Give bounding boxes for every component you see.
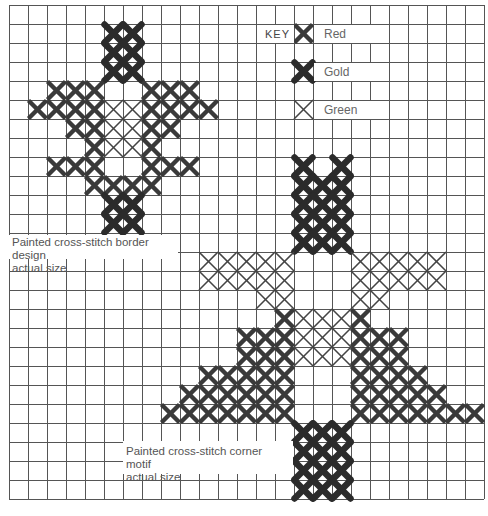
red-stitch-icon: [276, 310, 294, 328]
red-stitch-icon: [352, 405, 370, 423]
red-stitch-icon: [181, 405, 199, 423]
gold-stitch-icon: [295, 481, 313, 499]
gold-stitch-icon: [333, 234, 351, 252]
green-stitch-icon: [332, 328, 351, 347]
green-stitch-icon: [104, 100, 123, 119]
red-stitch-icon: [48, 101, 66, 119]
green-stitch-icon: [294, 328, 313, 347]
red-stitch-icon: [390, 329, 408, 347]
red-stitch-icon: [86, 177, 104, 195]
red-stitch-icon: [238, 329, 256, 347]
red-stitch-icon: [390, 386, 408, 404]
gold-stitch-icon: [105, 63, 123, 81]
green-stitch-icon: [389, 271, 408, 290]
green-stitch-icon: [123, 100, 142, 119]
red-stitch-icon: [352, 329, 370, 347]
red-stitch-icon: [162, 101, 180, 119]
red-stitch-icon: [219, 405, 237, 423]
border-design-caption: Painted cross-stitch border design actua…: [9, 235, 178, 259]
red-stitch-icon: [352, 348, 370, 366]
red-stitch-icon: [257, 329, 275, 347]
green-stitch-icon: [199, 271, 218, 290]
green-stitch-icon: [408, 271, 427, 290]
red-stitch-icon: [257, 367, 275, 385]
key-label-red: Red: [314, 25, 389, 43]
gold-stitch-icon: [333, 481, 351, 499]
red-stitch-icon: [67, 120, 85, 138]
gold-stitch-icon: [105, 25, 123, 43]
caption-line: actual size: [12, 262, 175, 275]
red-stitch-icon: [86, 158, 104, 176]
caption-line: Painted cross-stitch corner motif: [126, 445, 290, 471]
red-stitch-icon: [409, 367, 427, 385]
red-stitch-icon: [390, 405, 408, 423]
red-stitch-icon: [181, 386, 199, 404]
gold-stitch-icon: [295, 63, 313, 81]
green-stitch-icon: [351, 271, 370, 290]
green-stitch-icon: [294, 309, 313, 328]
gold-stitch-icon: [105, 44, 123, 62]
gold-stitch-icon: [295, 424, 313, 442]
red-stitch-icon: [238, 348, 256, 366]
gold-stitch-icon: [295, 462, 313, 480]
green-stitch-icon: [275, 271, 294, 290]
green-stitch-icon: [370, 290, 389, 309]
gold-stitch-icon: [295, 443, 313, 461]
gold-stitch-icon: [314, 443, 332, 461]
red-stitch-icon: [181, 82, 199, 100]
red-stitch-icon: [447, 405, 465, 423]
green-stitch-icon: [313, 328, 332, 347]
gold-stitch-icon: [295, 177, 313, 195]
red-stitch-icon: [276, 367, 294, 385]
red-stitch-icon: [67, 82, 85, 100]
green-stitch-icon: [218, 252, 237, 271]
red-stitch-icon: [295, 25, 313, 43]
green-stitch-icon: [256, 271, 275, 290]
red-stitch-icon: [409, 386, 427, 404]
gold-stitch-icon: [333, 158, 351, 176]
gold-stitch-icon: [295, 196, 313, 214]
green-stitch-icon: [123, 138, 142, 157]
gold-stitch-icon: [333, 196, 351, 214]
gold-stitch-icon: [295, 234, 313, 252]
gold-stitch-icon: [333, 215, 351, 233]
green-stitch-icon: [294, 347, 313, 366]
green-stitch-icon: [256, 290, 275, 309]
green-stitch-icon: [237, 271, 256, 290]
red-stitch-icon: [257, 386, 275, 404]
gold-stitch-icon: [333, 177, 351, 195]
red-stitch-icon: [257, 405, 275, 423]
red-stitch-icon: [200, 405, 218, 423]
red-stitch-icon: [48, 158, 66, 176]
red-stitch-icon: [219, 367, 237, 385]
green-stitch-icon: [218, 271, 237, 290]
gold-stitch-icon: [314, 177, 332, 195]
red-stitch-icon: [200, 101, 218, 119]
red-stitch-icon: [276, 386, 294, 404]
gold-stitch-icon: [105, 196, 123, 214]
gold-stitch-icon: [124, 25, 142, 43]
green-stitch-icon: [123, 119, 142, 138]
red-stitch-icon: [276, 329, 294, 347]
red-stitch-icon: [200, 386, 218, 404]
green-stitch-icon: [199, 252, 218, 271]
green-stitch-icon: [256, 252, 275, 271]
green-stitch-icon: [408, 252, 427, 271]
red-stitch-icon: [428, 405, 446, 423]
red-stitch-icon: [143, 101, 161, 119]
red-stitch-icon: [162, 405, 180, 423]
green-stitch-icon: [294, 100, 313, 119]
gold-stitch-icon: [124, 196, 142, 214]
green-stitch-icon: [237, 252, 256, 271]
red-stitch-icon: [238, 386, 256, 404]
red-stitch-icon: [238, 405, 256, 423]
caption-line: actual size: [126, 471, 290, 484]
green-stitch-icon: [275, 252, 294, 271]
red-stitch-icon: [428, 386, 446, 404]
red-stitch-icon: [238, 367, 256, 385]
red-stitch-icon: [143, 139, 161, 157]
green-stitch-icon: [332, 347, 351, 366]
green-stitch-icon: [332, 309, 351, 328]
red-stitch-icon: [105, 177, 123, 195]
red-stitch-icon: [48, 82, 66, 100]
